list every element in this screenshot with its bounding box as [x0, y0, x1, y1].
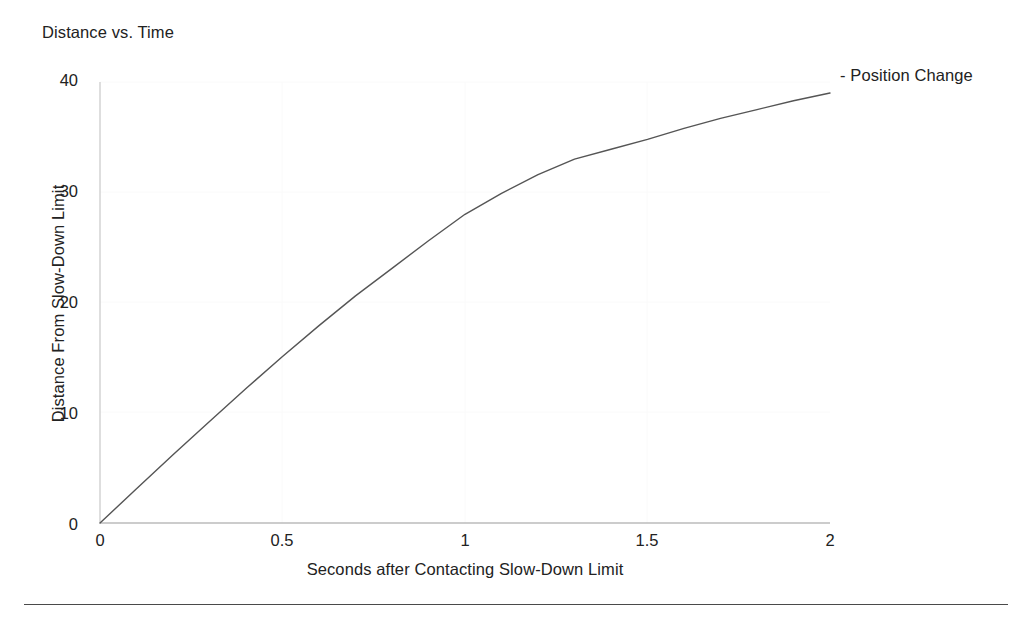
plot-area [0, 0, 1029, 619]
chart-figure: Distance vs. Time - Position Change Dist… [0, 0, 1029, 619]
gridlines [100, 82, 830, 523]
footer-divider-rule [24, 604, 1008, 605]
